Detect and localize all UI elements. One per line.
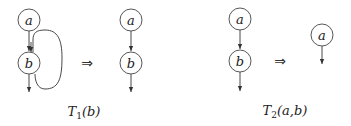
t2-before-graph: a b [229, 8, 251, 91]
node-a: a [120, 9, 142, 31]
node-b: b [229, 50, 251, 72]
node-a: a [18, 9, 40, 31]
svg-text:b: b [25, 56, 33, 71]
svg-text:a: a [236, 12, 244, 27]
node-a: a [311, 24, 333, 46]
t2-after-graph: a [311, 24, 333, 64]
t1-before-graph: a b [18, 9, 62, 92]
implies-arrow-2: ⇒ [274, 53, 286, 69]
svg-text:b: b [236, 54, 244, 69]
svg-text:b: b [127, 56, 135, 71]
svg-text:a: a [318, 28, 326, 43]
t1-after-graph: a b [120, 9, 142, 92]
node-b: b [18, 52, 40, 74]
svg-text:a: a [127, 13, 135, 28]
node-a: a [229, 8, 251, 30]
t1-label: T1(b) [68, 104, 101, 121]
transformation-diagram: a b ⇒ a b T1(b) a b ⇒ [0, 0, 351, 126]
svg-text:a: a [25, 13, 33, 28]
implies-arrow-1: ⇒ [81, 55, 93, 71]
t2-label: T2(a,b) [263, 103, 308, 120]
node-b: b [120, 52, 142, 74]
